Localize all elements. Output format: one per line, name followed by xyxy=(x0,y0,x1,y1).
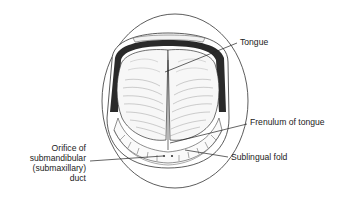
duct-orifice-left xyxy=(163,155,165,157)
label-sublingual-fold: Sublingual fold xyxy=(231,152,287,162)
tongue-anatomy-diagram: Tongue Frenulum of tongue Sublingual fol… xyxy=(0,0,350,199)
duct-orifice-right xyxy=(171,155,173,157)
label-orifice-line1: Orifice of xyxy=(30,143,86,153)
label-orifice-line4: duct xyxy=(30,173,86,183)
label-frenulum-of-tongue: Frenulum of tongue xyxy=(250,117,325,127)
label-tongue: Tongue xyxy=(240,37,268,47)
label-orifice-line2: submandibular xyxy=(30,153,86,163)
label-orifice-line3: (submaxillary) xyxy=(30,163,86,173)
label-orifice-submandibular-duct: Orifice of submandibular (submaxillary) … xyxy=(30,143,86,183)
